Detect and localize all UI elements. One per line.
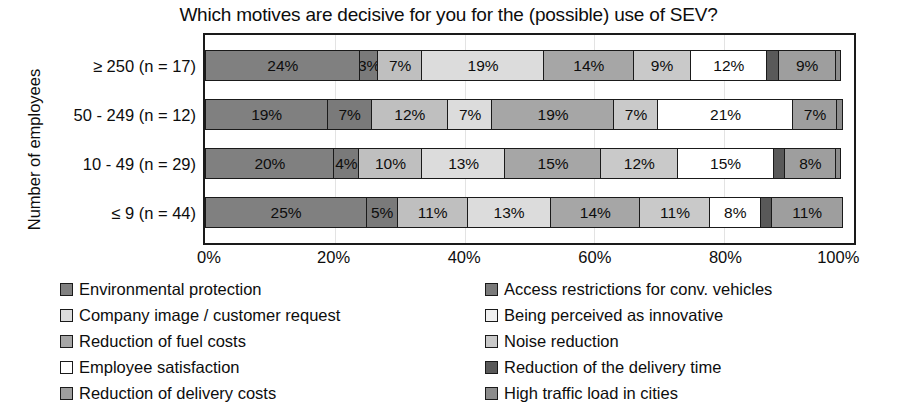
- chart-title: Which motives are decisive for you for t…: [0, 4, 897, 26]
- segment-value-label: 9%: [796, 58, 818, 74]
- segment-value-label: 8%: [724, 205, 746, 221]
- legend-swatch-icon: [60, 361, 73, 374]
- legend-item-label: Company image / customer request: [79, 306, 340, 325]
- bar-segment: 7%: [377, 50, 422, 81]
- legend-swatch-icon: [60, 309, 73, 322]
- legend-item[interactable]: Being perceived as innovative: [485, 303, 890, 328]
- segment-value-label: 5%: [371, 205, 393, 221]
- bar-segment: 24%: [205, 50, 361, 81]
- bar-segment: 19%: [491, 99, 614, 130]
- segment-value-label: 11%: [792, 205, 822, 221]
- segment-value-label: 13%: [494, 205, 525, 221]
- segment-value-label: 11%: [660, 205, 690, 221]
- category-label: ≥ 250 (n = 17): [93, 56, 196, 75]
- segment-value-label: 10%: [375, 156, 406, 172]
- segment-value-label: 19%: [251, 107, 282, 123]
- segment-value-label: 21%: [710, 107, 741, 123]
- segment-value-label: 7%: [804, 107, 826, 123]
- segment-value-label: 7%: [625, 107, 647, 123]
- legend-item[interactable]: Reduction of delivery costs: [60, 381, 485, 406]
- stacked-bar: 25%5%11%13%14%11%8%11%: [205, 197, 854, 228]
- x-tick-label: 40%: [448, 248, 481, 267]
- bar-row: 50 - 249 (n = 12)19%7%12%7%19%7%21%7%: [205, 88, 854, 141]
- stacked-bar: 20%4%10%13%15%12%15%8%: [205, 148, 854, 179]
- segment-value-label: 8%: [799, 156, 821, 172]
- segment-value-label: 4%: [335, 156, 357, 172]
- segment-value-label: 14%: [573, 58, 604, 74]
- category-label: ≤ 9 (n = 44): [111, 203, 196, 222]
- legend-item-label: Reduction of delivery costs: [79, 384, 276, 403]
- y-axis-title: Number of employees: [25, 50, 44, 250]
- bar-segment: 12%: [690, 50, 768, 81]
- legend-swatch-icon: [485, 335, 498, 348]
- bar-row: ≥ 250 (n = 17)24%3%7%19%14%9%12%9%: [205, 39, 854, 92]
- bar-segment: 19%: [205, 99, 328, 130]
- chart-legend: Environmental protectionCompany image / …: [60, 277, 890, 406]
- legend-item-label: Reduction of fuel costs: [79, 332, 246, 351]
- segment-value-label: 24%: [267, 58, 298, 74]
- legend-swatch-icon: [485, 283, 498, 296]
- bar-segment: 11%: [639, 197, 710, 228]
- segment-value-label: 9%: [651, 58, 673, 74]
- legend-item[interactable]: Company image / customer request: [60, 303, 485, 328]
- x-axis-tick-labels: 0%20%40%60%80%100%: [203, 248, 856, 272]
- segment-value-label: 14%: [580, 205, 611, 221]
- bar-segment: 9%: [778, 50, 836, 81]
- segment-value-label: 20%: [254, 156, 285, 172]
- bar-segment: 9%: [633, 50, 691, 81]
- legend-item[interactable]: Environmental protection: [60, 277, 485, 302]
- x-tick-label: 20%: [317, 248, 350, 267]
- segment-value-label: 12%: [394, 107, 425, 123]
- legend-item[interactable]: Reduction of the delivery time: [485, 355, 890, 380]
- bar-segment: 14%: [550, 197, 641, 228]
- bar-segment: 7%: [792, 99, 837, 130]
- legend-item[interactable]: Employee satisfaction: [60, 355, 485, 380]
- bar-segment: 7%: [613, 99, 658, 130]
- bar-segment: 7%: [447, 99, 492, 130]
- segment-value-label: 19%: [468, 58, 499, 74]
- bar-row: ≤ 9 (n = 44)25%5%11%13%14%11%8%11%: [205, 186, 854, 239]
- legend-item[interactable]: Noise reduction: [485, 329, 890, 354]
- legend-item-label: Employee satisfaction: [79, 358, 240, 377]
- bar-segment: 5%: [366, 197, 398, 228]
- legend-column-right: Access restrictions for conv. vehiclesBe…: [485, 277, 890, 406]
- bar-segment: [835, 148, 841, 179]
- stacked-bar: 24%3%7%19%14%9%12%9%: [205, 50, 854, 81]
- segment-value-label: 25%: [271, 205, 302, 221]
- category-label: 10 - 49 (n = 29): [83, 154, 196, 173]
- segment-value-label: 15%: [538, 156, 569, 172]
- legend-item-label: Being perceived as innovative: [504, 306, 723, 325]
- bar-segment: 21%: [657, 99, 793, 130]
- bar-segment: 14%: [543, 50, 634, 81]
- x-tick-label: 100%: [817, 248, 859, 267]
- legend-swatch-icon: [60, 335, 73, 348]
- segment-value-label: 13%: [448, 156, 479, 172]
- segment-value-label: 7%: [459, 107, 481, 123]
- x-tick-label: 80%: [709, 248, 742, 267]
- bar-segment: 19%: [421, 50, 544, 81]
- bar-segment: 8%: [784, 148, 836, 179]
- bar-segment: 15%: [677, 148, 774, 179]
- legend-item-label: Noise reduction: [504, 332, 619, 351]
- legend-item[interactable]: Reduction of fuel costs: [60, 329, 485, 354]
- bar-segment: [835, 50, 841, 81]
- legend-item-label: High traffic load in cities: [504, 384, 678, 403]
- legend-swatch-icon: [485, 387, 498, 400]
- bar-segment: 8%: [709, 197, 761, 228]
- bar-segment: 12%: [371, 99, 449, 130]
- bar-segment: 13%: [467, 197, 551, 228]
- legend-item[interactable]: Access restrictions for conv. vehicles: [485, 277, 890, 302]
- segment-value-label: 11%: [418, 205, 448, 221]
- legend-item-label: Reduction of the delivery time: [504, 358, 721, 377]
- bar-segment: 4%: [333, 148, 359, 179]
- bar-row: 10 - 49 (n = 29)20%4%10%13%15%12%15%8%: [205, 137, 854, 190]
- legend-column-left: Environmental protectionCompany image / …: [60, 277, 485, 406]
- segment-value-label: 7%: [389, 58, 411, 74]
- legend-item[interactable]: High traffic load in cities: [485, 381, 890, 406]
- bar-segment: 20%: [205, 148, 335, 179]
- plot-area: ≥ 250 (n = 17)24%3%7%19%14%9%12%9%50 - 2…: [203, 33, 856, 245]
- bar-segment: [836, 99, 842, 130]
- x-tick-label: 60%: [578, 248, 611, 267]
- legend-swatch-icon: [485, 309, 498, 322]
- segment-value-label: 7%: [338, 107, 360, 123]
